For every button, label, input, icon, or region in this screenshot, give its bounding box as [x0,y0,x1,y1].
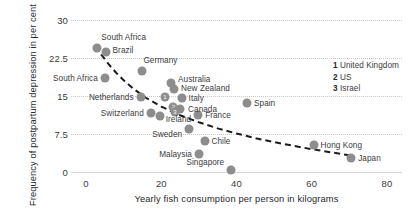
x-tick-80: 80 [367,178,407,189]
legend: 1 United Kingdom2 US3 Israel [333,60,399,95]
data-point-label: Brazil [113,46,134,55]
data-point[interactable] [227,166,236,175]
x-axis-title: Yearly fish consumption per person in ki… [71,194,402,204]
legend-item-label: US [340,73,351,82]
data-point-label: Malaysia [159,149,192,158]
data-point[interactable] [146,109,155,118]
data-point[interactable] [100,73,109,82]
legend-item-number: 1 [333,61,340,70]
y-tick-7.5: 7.5 [28,129,68,140]
legend-item-label: Israel [340,84,360,93]
y-tick-22.5: 22.5 [28,53,68,64]
data-point-label: Hong Kong [321,140,362,149]
data-point-label: Singapore [186,158,224,167]
gridline-y-22.5 [71,58,402,59]
data-point-label: New Zealand [181,83,230,92]
legend-item: 3 Israel [333,83,399,95]
data-point[interactable] [136,93,145,102]
data-point-label: Japan [358,154,381,163]
data-point-label: Spain [254,99,275,108]
data-point[interactable] [243,99,252,108]
data-point[interactable] [185,125,194,134]
numbered-data-point-1[interactable]: 1 [161,93,170,102]
data-point-label: Netherlands [89,93,134,102]
data-point[interactable] [309,140,318,149]
x-tick-20: 20 [141,178,181,189]
x-tick-60: 60 [292,178,332,189]
data-point[interactable] [347,154,356,163]
data-point[interactable] [155,112,164,121]
data-point-label: South Africa [53,73,98,82]
data-point[interactable] [200,136,209,145]
data-point-label: Italy [189,93,204,102]
scatter-chart: Frequency of postpartum depression in pe… [0,0,417,221]
legend-item-label: United Kingdom [340,61,399,70]
data-point-label: France [205,111,231,120]
data-point[interactable] [138,66,147,75]
data-point-label: Australia [178,74,210,83]
data-point-label: Chile [212,136,231,145]
data-point[interactable] [101,48,110,57]
gridline-y-30 [71,20,402,21]
data-point[interactable] [170,84,179,93]
data-point-label: Germany [143,55,177,64]
data-point-label: Sweden [152,130,182,139]
plot-area: 123 South AfricaBrazilSouth AfricaGerman… [71,20,402,172]
y-tick-15: 15 [28,91,68,102]
data-point[interactable] [177,93,186,102]
data-point-label: Switzerland [101,109,144,118]
data-point-label: South Africa [101,32,146,41]
x-tick-40: 40 [217,178,257,189]
legend-item: 2 US [333,72,399,84]
legend-item: 1 United Kingdom [333,60,399,72]
legend-item-number: 2 [333,73,340,82]
data-point[interactable] [194,149,203,158]
legend-item-number: 3 [333,84,340,93]
gridline-y-7.5 [71,134,402,135]
y-tick-30: 30 [28,15,68,26]
x-tick-0: 0 [66,178,106,189]
gridline-y-0 [71,172,402,173]
y-tick-0: 0 [28,167,68,178]
data-point-label: Ireland [166,115,191,124]
